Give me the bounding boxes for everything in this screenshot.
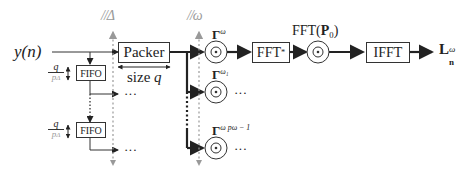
fifo-block-0: FIFO — [76, 65, 106, 81]
packer-block: Packer — [118, 42, 170, 63]
parallel-omega-label: //ω — [187, 9, 202, 23]
packer-size-label: size q — [127, 70, 162, 85]
gamma-label-2: Γω pω − 1 — [212, 124, 250, 137]
packer-bus — [170, 52, 203, 148]
fifo-rate-1: q pΔ — [48, 119, 64, 139]
gamma-node-1 — [205, 81, 227, 103]
packer-label: Packer — [124, 44, 165, 61]
input-label: y(n) — [14, 43, 41, 60]
gamma-label-1: Γω₁ — [212, 68, 229, 81]
ifft-block: IFFT — [366, 42, 410, 63]
fifo-rate-0: q pΔ — [48, 62, 64, 82]
fifo-block-1: FIFO — [76, 122, 106, 138]
parallel-delta-label: //Δ — [101, 9, 114, 23]
fifo-ellipsis-1: ··· — [124, 143, 137, 156]
fft-p0-multiply-node — [307, 41, 329, 63]
fifo-ellipsis-0: ··· — [124, 87, 137, 100]
gamma-ellipsis-1: ··· — [234, 86, 247, 99]
gamma-label-0: Γω — [212, 28, 226, 41]
gamma-node-0 — [205, 41, 227, 63]
fft-p0-label: FFT(P0) — [292, 24, 338, 40]
fft-conj-block: FFT* — [252, 42, 290, 63]
gamma-ellipsis-2: ··· — [234, 142, 247, 155]
gamma-node-2 — [205, 137, 227, 159]
output-label: L ω n — [439, 42, 459, 57]
